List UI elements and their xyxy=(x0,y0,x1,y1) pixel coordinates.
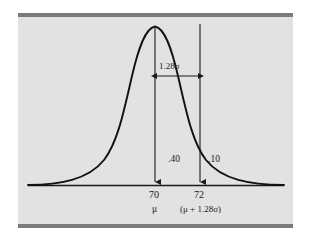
mu-expression-label: (μ + 1.28σ) xyxy=(180,205,221,214)
mu-symbol-label: μ xyxy=(152,205,157,215)
normal-density-curve xyxy=(28,27,284,186)
sigma-span-label: 1.28σ xyxy=(159,62,180,71)
x-tick-label-72: 72 xyxy=(194,190,204,200)
area-right-label: .10 xyxy=(208,155,220,165)
figure-container: 1.28σ .40 .10 70 72 μ (μ + 1.28σ) xyxy=(0,0,309,241)
x-tick-label-70: 70 xyxy=(149,190,159,200)
area-left-label: .40 xyxy=(168,155,180,165)
